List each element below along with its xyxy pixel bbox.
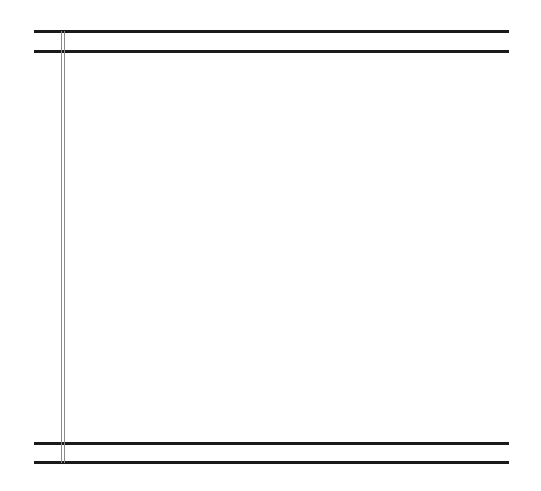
margin-rule-left	[61, 31, 62, 463]
top-rule-2	[34, 50, 509, 53]
bottom-rule-1	[34, 442, 509, 445]
top-rule-1	[34, 30, 509, 33]
blank-page-canvas	[0, 0, 541, 491]
margin-rule-right	[64, 31, 65, 463]
bottom-rule-2	[34, 461, 509, 464]
